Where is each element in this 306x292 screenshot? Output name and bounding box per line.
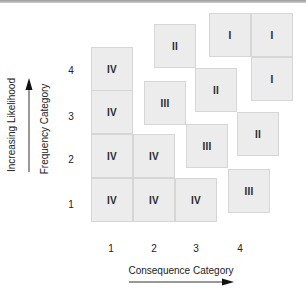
x-axis-arrow-icon xyxy=(0,0,306,292)
